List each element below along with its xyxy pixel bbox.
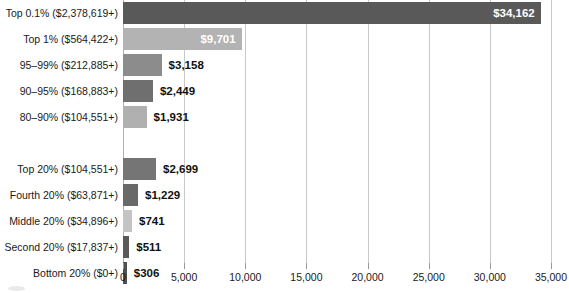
bar-value-label: $34,162: [493, 2, 535, 24]
x-tick-mark: [123, 263, 124, 269]
bar-row: Middle 20% ($34,896+)$741: [0, 210, 569, 232]
x-axis: 05,00010,00015,00020,00025,00030,00035,0…: [0, 263, 569, 293]
x-tick-label: 20,000: [352, 271, 384, 283]
bar[interactable]: [123, 184, 138, 206]
x-tick-label: 5,000: [171, 271, 197, 283]
bar[interactable]: [123, 80, 153, 102]
x-tick-label: 15,000: [290, 271, 322, 283]
bar[interactable]: [123, 236, 129, 258]
x-tick-mark: [368, 263, 369, 269]
bar-value-label: $3,158: [169, 54, 204, 76]
bar[interactable]: [123, 2, 541, 24]
bar-row: Top 20% ($104,551+)$2,699: [0, 158, 569, 180]
bar-value-label: $9,701: [200, 28, 235, 50]
category-label: 95–99% ($212,885+): [20, 54, 118, 76]
bar-chart: Top 0.1% ($2,378,619+)$34,162Top 1% ($56…: [0, 0, 569, 293]
x-tick-mark: [245, 263, 246, 269]
x-tick-mark: [490, 263, 491, 269]
category-label: Middle 20% ($34,896+): [9, 210, 118, 232]
bar-value-label: $1,931: [154, 106, 189, 128]
x-tick-mark: [184, 263, 185, 269]
x-tick-mark: [306, 263, 307, 269]
category-label: 80–90% ($104,551+): [20, 106, 118, 128]
bar-row: 80–90% ($104,551+)$1,931: [0, 106, 569, 128]
bar-row: Second 20% ($17,837+)$511: [0, 236, 569, 258]
category-label: Top 1% ($564,422+): [23, 28, 118, 50]
bar-row: 95–99% ($212,885+)$3,158: [0, 54, 569, 76]
bar[interactable]: [123, 158, 156, 180]
bar-row: Top 0.1% ($2,378,619+)$34,162: [0, 2, 569, 24]
scan-artifact: [8, 286, 25, 291]
bar[interactable]: [123, 210, 132, 232]
category-label: 90–95% ($168,883+): [20, 80, 118, 102]
bar[interactable]: [123, 106, 147, 128]
bar-row: Top 1% ($564,422+)$9,701: [0, 28, 569, 50]
bar-rows: Top 0.1% ($2,378,619+)$34,162Top 1% ($56…: [0, 0, 569, 263]
x-tick-label: 25,000: [413, 271, 445, 283]
bar-value-label: $511: [136, 236, 161, 258]
bar-value-label: $2,699: [163, 158, 198, 180]
bar-value-label: $741: [139, 210, 165, 232]
bar[interactable]: [123, 54, 162, 76]
bar-row: Fourth 20% ($63,871+)$1,229: [0, 184, 569, 206]
bar-value-label: $2,449: [160, 80, 195, 102]
category-label: Fourth 20% ($63,871+): [10, 184, 118, 206]
category-label: Top 20% ($104,551+): [17, 158, 118, 180]
x-tick-label: 0: [120, 271, 126, 283]
category-label: Second 20% ($17,837+): [4, 236, 118, 258]
x-tick-label: 10,000: [229, 271, 261, 283]
x-tick-label: 30,000: [474, 271, 506, 283]
x-tick-mark: [551, 263, 552, 269]
category-label: Top 0.1% ($2,378,619+): [6, 2, 118, 24]
x-tick-mark: [429, 263, 430, 269]
x-tick-label: 35,000: [535, 271, 567, 283]
bar-value-label: $1,229: [145, 184, 180, 206]
bar-row: 90–95% ($168,883+)$2,449: [0, 80, 569, 102]
